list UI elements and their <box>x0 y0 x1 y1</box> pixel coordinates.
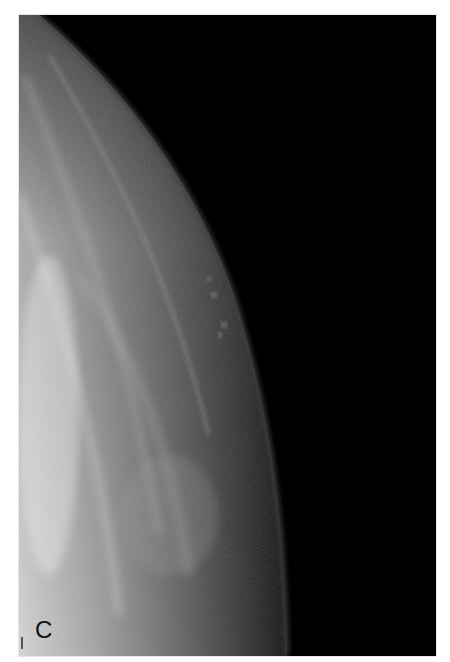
mammogram-image <box>19 15 436 656</box>
panel-label: C <box>35 618 52 642</box>
mammogram-panel: C <box>19 15 436 656</box>
edge-marker <box>21 637 23 649</box>
